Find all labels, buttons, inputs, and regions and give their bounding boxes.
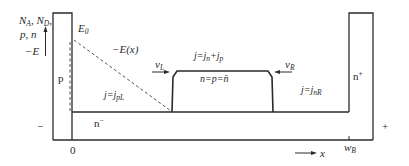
total-current-label: j=jn+jp bbox=[194, 50, 223, 62]
field-profile-label: −E(x) bbox=[112, 43, 138, 55]
x-axis-label: x bbox=[320, 147, 325, 159]
origin-label: 0 bbox=[70, 144, 76, 156]
y-axis-label-carriers: p, n bbox=[20, 28, 37, 40]
vR-label: vR bbox=[285, 58, 294, 70]
wB-label: wB bbox=[344, 141, 356, 153]
diode-diagram: NA, ND, p, n −E p n− n+ − + 0 wB x E0 −E… bbox=[0, 0, 409, 166]
left-current-label: j=jpL bbox=[104, 89, 124, 101]
vL-arrow-head bbox=[164, 70, 170, 74]
n-minus-region-label: n− bbox=[94, 117, 104, 129]
vL-label: vL bbox=[155, 58, 164, 70]
plus-terminal: + bbox=[382, 120, 388, 132]
y-axis-label-doping: NA, ND, bbox=[19, 14, 52, 26]
minus-terminal: − bbox=[37, 120, 43, 132]
vR-arrow-head bbox=[274, 70, 280, 74]
x-arrow-head bbox=[311, 151, 317, 155]
E0-label: E0 bbox=[78, 22, 88, 34]
y-axis-label-field: −E bbox=[25, 45, 39, 57]
right-current-label: j=jnR bbox=[301, 84, 322, 96]
p-region-label: p bbox=[58, 72, 64, 84]
plasma-density-label: n=p=n̄ bbox=[200, 73, 229, 85]
n-plus-region-label: n+ bbox=[353, 70, 363, 82]
